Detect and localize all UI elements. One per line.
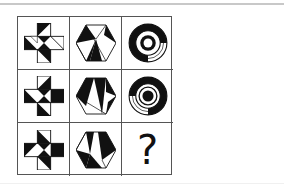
concentric-rings-icon (128, 23, 168, 63)
cell-r2-c1 (18, 70, 70, 123)
cell-r3-c3: ? (122, 123, 173, 176)
concentric-rings-icon (128, 76, 168, 116)
hexagon-icon (76, 23, 116, 63)
cell-r1-c1 (18, 17, 70, 70)
top-divider (0, 3, 284, 5)
cross-icon (24, 76, 64, 116)
cell-r3-c2 (70, 123, 122, 176)
cross-icon (24, 130, 64, 170)
cell-r1-c3 (122, 17, 173, 70)
puzzle-grid: ? (17, 16, 172, 175)
cross-icon (24, 23, 64, 63)
cell-r2-c2 (70, 70, 122, 123)
missing-answer-question-mark: ? (137, 130, 158, 170)
hexagon-icon (76, 130, 116, 170)
cell-r3-c1 (18, 123, 70, 176)
bottom-divider (0, 183, 284, 184)
cell-r1-c2 (70, 17, 122, 70)
cell-r2-c3 (122, 70, 173, 123)
hexagon-icon (76, 76, 116, 116)
